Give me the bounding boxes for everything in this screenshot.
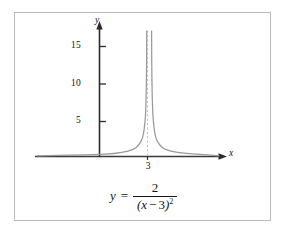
figure-frame: 15 10 5 y x 3 y = 2 (x−3)2 bbox=[14, 12, 271, 221]
equation-caption: y = 2 (x−3)2 bbox=[15, 181, 272, 211]
y-axis bbox=[96, 21, 102, 157]
x-tick-label-3: 3 bbox=[141, 161, 155, 171]
equation-denominator-exponent: 2 bbox=[169, 196, 173, 205]
equation-denominator: (x−3)2 bbox=[134, 197, 176, 212]
curve-left-branch bbox=[37, 31, 147, 156]
y-tick-label-5: 5 bbox=[61, 115, 81, 125]
curve-right-branch bbox=[152, 31, 219, 156]
equation-row: y = 2 (x−3)2 bbox=[110, 181, 177, 211]
equation-lhs: y bbox=[110, 188, 116, 204]
equation-fraction: 2 (x−3)2 bbox=[133, 181, 177, 211]
y-tick-label-15: 15 bbox=[61, 40, 81, 50]
x-axis-label: x bbox=[229, 148, 233, 158]
equation-equals-sign: = bbox=[120, 188, 129, 204]
y-axis-label: y bbox=[95, 15, 99, 25]
equation-denominator-operator: − bbox=[147, 197, 158, 212]
y-axis-ticks bbox=[100, 47, 107, 122]
equation-numerator: 2 bbox=[146, 181, 165, 196]
y-tick-label-10: 10 bbox=[61, 78, 81, 88]
